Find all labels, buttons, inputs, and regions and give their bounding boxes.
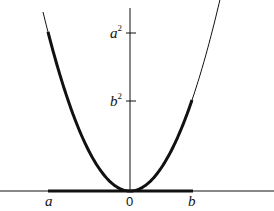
- parabola-curve: [43, 0, 220, 191]
- label-b-squared: b2: [110, 94, 122, 109]
- diagram-graphics: [0, 0, 274, 211]
- parabola-highlight: [48, 32, 192, 191]
- label-b: b: [188, 194, 196, 209]
- label-origin: 0: [126, 195, 133, 208]
- label-a: a: [45, 194, 53, 209]
- label-a-squared: a2: [110, 26, 122, 41]
- parabola-diagram: a2 b2 a 0 b: [0, 0, 274, 211]
